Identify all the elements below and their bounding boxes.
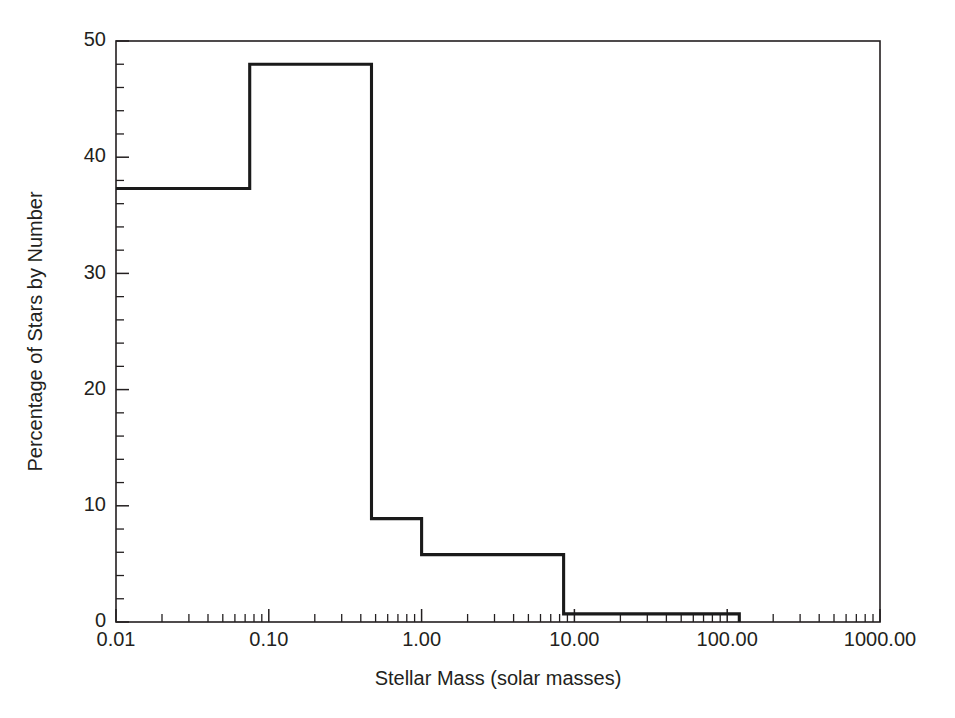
x-axis-title: Stellar Mass (solar masses): [375, 667, 622, 689]
plot-frame: [116, 41, 880, 622]
histogram-step-line: [116, 64, 739, 622]
figure-container: 0.010.101.0010.00100.001000.00 010203040…: [0, 0, 955, 718]
y-tick-label: 40: [84, 144, 106, 166]
stellar-mass-histogram-chart: 0.010.101.0010.00100.001000.00 010203040…: [0, 0, 955, 718]
y-tick-label: 10: [84, 493, 106, 515]
x-tick-label: 1000.00: [844, 628, 916, 650]
x-tick-label: 10.00: [549, 628, 599, 650]
x-tick-label: 0.01: [97, 628, 136, 650]
x-tick-label: 1.00: [402, 628, 441, 650]
y-tick-label: 0: [95, 609, 106, 631]
x-axis-tick-labels: 0.010.101.0010.00100.001000.00: [97, 628, 917, 650]
y-tick-label: 50: [84, 28, 106, 50]
x-axis-ticks: [116, 609, 880, 622]
x-tick-label: 100.00: [697, 628, 758, 650]
y-axis-title: Percentage of Stars by Number: [24, 191, 46, 471]
y-tick-label: 30: [84, 261, 106, 283]
x-tick-label: 0.10: [249, 628, 288, 650]
y-axis-ticks: [116, 41, 129, 622]
y-axis-tick-labels: 01020304050: [84, 28, 106, 631]
y-tick-label: 20: [84, 377, 106, 399]
